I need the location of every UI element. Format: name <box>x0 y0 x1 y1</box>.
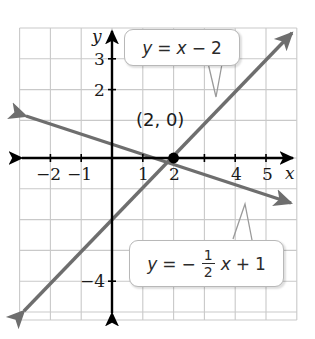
callout-equation-line2[interactable]: y = − 1 2 x + 1 <box>129 240 284 287</box>
callout2-operator: + <box>236 254 250 274</box>
x-axis-name: x <box>285 163 295 183</box>
callout2-variable: x <box>221 254 231 274</box>
y-tick-label--4: −4 <box>80 271 105 291</box>
graph-figure: −2 −1 1 2 4 5 3 2 −4 x y (2, 0) y = x − … <box>0 0 315 339</box>
callout2-denominator: 2 <box>204 264 213 279</box>
callout1-operator: − <box>192 38 206 58</box>
x-tick-label-4: 4 <box>231 164 242 184</box>
callout2-numerator: 1 <box>204 248 213 263</box>
callout2-equals: = <box>162 254 176 274</box>
y-tick-label-3: 3 <box>94 49 105 69</box>
callout1-variable: x <box>177 38 187 58</box>
callout2-constant: 1 <box>255 254 266 274</box>
callout2-negative-sign: − <box>181 254 195 274</box>
callout2-fraction: 1 2 <box>202 248 215 280</box>
callout1-constant: 2 <box>211 38 222 58</box>
intersection-point-label: (2, 0) <box>136 109 184 130</box>
callout-equation-line1[interactable]: y = x − 2 <box>124 29 240 66</box>
x-tick-label-2: 2 <box>169 164 180 184</box>
x-tick-label-5: 5 <box>262 164 273 184</box>
callout-tail-line1 <box>208 63 222 97</box>
callout-tail-line2 <box>233 204 252 240</box>
intersection-point <box>168 153 179 164</box>
x-tick-label--2: −2 <box>36 164 61 184</box>
callout1-equals: = <box>157 38 171 58</box>
x-tick-label--1: −1 <box>67 164 92 184</box>
callout1-lhs: y <box>142 38 152 58</box>
x-tick-label-1: 1 <box>138 164 149 184</box>
y-axis-name: y <box>92 26 102 46</box>
callout2-lhs: y <box>147 254 157 274</box>
y-tick-label-2: 2 <box>94 80 105 100</box>
